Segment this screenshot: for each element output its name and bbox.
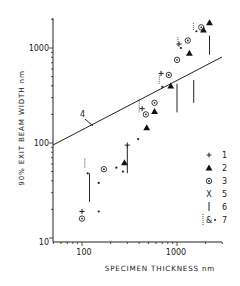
triangle-marker xyxy=(143,124,150,130)
reference-line-4 xyxy=(53,57,222,145)
svg-text:&: & xyxy=(206,216,212,225)
legend-key: 5 xyxy=(222,190,227,199)
dot-marker xyxy=(195,30,197,32)
legend-key: 2 xyxy=(222,164,227,173)
line-label-leader xyxy=(85,119,93,126)
dot-marker xyxy=(180,47,182,49)
triangle-marker xyxy=(206,165,213,171)
dot-marker xyxy=(98,182,100,184)
legend-key: 1 xyxy=(222,151,227,160)
dot-marker xyxy=(87,172,89,174)
tick-marks xyxy=(49,19,222,246)
dot-marker xyxy=(122,170,124,172)
plus-marker xyxy=(176,41,181,46)
x-axis-label: SPECIMEN THICKNESS nm xyxy=(105,264,215,273)
legend: 123X56&7 xyxy=(203,151,227,225)
data-points xyxy=(79,19,213,221)
xtick-100: 100 xyxy=(76,248,91,257)
plus-marker xyxy=(79,209,84,214)
dot-marker xyxy=(137,138,139,140)
ytick-100: 100 xyxy=(34,139,49,148)
plus-marker xyxy=(207,153,212,158)
ytick-10: 10 xyxy=(39,238,49,247)
triangle-marker xyxy=(206,19,213,25)
dot-marker xyxy=(115,167,117,169)
line-label-4: 4 xyxy=(80,110,85,119)
legend-key: 3 xyxy=(222,177,227,186)
dot-marker xyxy=(98,210,100,212)
legend-key: 6 xyxy=(222,203,227,212)
legend-key: 7 xyxy=(222,216,227,225)
xtick-1000: 1000 xyxy=(166,248,186,257)
triangle-marker xyxy=(186,50,193,56)
ytick-1000: 1000 xyxy=(29,44,49,53)
svg-text:X: X xyxy=(206,190,212,199)
triangle-marker xyxy=(151,108,158,114)
chart: 1000 100 10 100 1000 90% EXIT BEAM WIDTH… xyxy=(0,0,240,286)
y-axis-label: 90% EXIT BEAM WIDTH nm xyxy=(17,70,26,185)
axes xyxy=(53,18,222,242)
dot-marker xyxy=(161,86,163,88)
plus-marker xyxy=(140,106,145,111)
